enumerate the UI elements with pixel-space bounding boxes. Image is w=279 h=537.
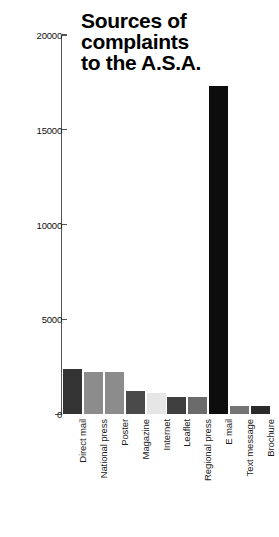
y-axis-tick-label: 0 bbox=[6, 409, 62, 420]
x-axis-category-label: Brochure bbox=[265, 419, 276, 457]
y-axis-tick bbox=[62, 224, 67, 225]
x-axis-category-label: Direct mail bbox=[77, 419, 88, 463]
bar bbox=[105, 372, 124, 414]
x-axis-category-label: E mail bbox=[223, 419, 234, 445]
x-axis-category-label: Internet bbox=[161, 419, 172, 450]
y-axis-tick-label: 10000 bbox=[6, 219, 62, 230]
x-axis-category-label: Poster bbox=[119, 419, 130, 446]
bar bbox=[230, 406, 249, 414]
bar bbox=[188, 397, 207, 414]
x-axis-category-label: Regional press bbox=[202, 419, 213, 481]
bar bbox=[84, 372, 103, 414]
x-axis-category-label: National press bbox=[98, 419, 109, 478]
bar bbox=[167, 397, 186, 414]
bar bbox=[63, 369, 82, 414]
y-axis-tick bbox=[62, 34, 67, 35]
bar bbox=[251, 406, 270, 414]
x-axis-category-label: Leaflet bbox=[181, 419, 192, 447]
y-axis-tick-label: 5000 bbox=[6, 314, 62, 325]
x-axis-category-label: Magazine bbox=[140, 419, 151, 459]
y-axis-tick bbox=[62, 129, 67, 130]
bar-chart: Sources of complaints to the A.S.A. 0500… bbox=[0, 0, 279, 537]
y-axis-tick bbox=[62, 319, 67, 320]
bar bbox=[126, 391, 145, 414]
bar bbox=[147, 393, 166, 414]
plot-area bbox=[62, 35, 271, 414]
y-axis-tick-label: 15000 bbox=[6, 124, 62, 135]
y-axis-ticks: 05000100001500020000 bbox=[0, 0, 62, 537]
y-axis-tick-label: 20000 bbox=[6, 30, 62, 41]
bar bbox=[209, 86, 228, 414]
x-axis-category-label: Text message bbox=[244, 419, 255, 476]
